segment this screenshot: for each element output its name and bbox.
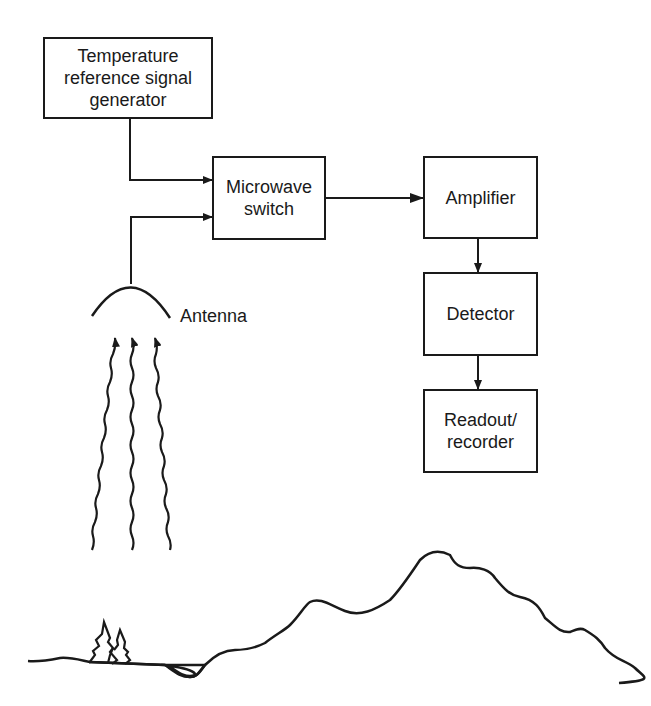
microwave-switch-label: Microwave switch xyxy=(224,176,314,220)
detector-box: Detector xyxy=(423,272,538,356)
amplifier-box: Amplifier xyxy=(423,156,538,239)
antenna-label: Antenna xyxy=(180,306,247,327)
temp-ref-generator-box: Temperature reference signal generator xyxy=(43,37,213,119)
edge-tempref-switch xyxy=(130,117,212,180)
edge-antenna-switch xyxy=(131,217,212,284)
microwave-switch-box: Microwave switch xyxy=(212,156,326,240)
readout-recorder-box: Readout/ recorder xyxy=(423,389,538,473)
detector-label: Detector xyxy=(446,303,514,325)
trees-icon xyxy=(89,622,130,664)
amplifier-label: Amplifier xyxy=(445,187,515,209)
radiation-waves-icon xyxy=(92,338,171,550)
antenna-dish-icon xyxy=(92,287,170,318)
readout-recorder-label: Readout/ recorder xyxy=(436,409,526,453)
temp-ref-generator-label: Temperature reference signal generator xyxy=(53,45,203,111)
